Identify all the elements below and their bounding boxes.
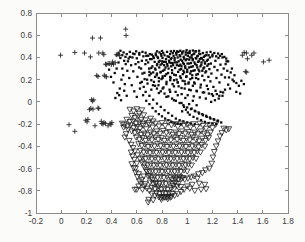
data-point-dot — [183, 63, 185, 65]
data-point-dot — [218, 97, 220, 99]
data-point-dot — [185, 51, 187, 53]
data-point-dot — [203, 66, 205, 68]
data-point-dot — [217, 57, 219, 59]
data-point-dot — [124, 56, 126, 58]
data-point-dot — [163, 69, 165, 71]
data-point-dot — [180, 77, 182, 79]
data-point-dot — [214, 60, 216, 62]
data-point-dot — [181, 110, 183, 112]
data-point-dot — [139, 82, 141, 84]
data-point-dot — [145, 59, 147, 61]
data-point-dot — [240, 80, 242, 82]
data-point-dot — [155, 52, 157, 54]
data-point-dot — [165, 96, 167, 98]
data-point-dot — [170, 58, 172, 60]
data-point-dot — [144, 52, 146, 54]
data-point-dot — [158, 51, 160, 53]
data-point-dot — [206, 116, 208, 118]
data-point-dot — [206, 60, 208, 62]
data-point-dot — [141, 72, 143, 74]
data-point-dot — [161, 115, 163, 117]
data-point-dot — [166, 65, 168, 67]
data-point-dot — [165, 83, 167, 85]
data-point-dot — [154, 76, 156, 78]
data-point-dot — [171, 69, 173, 71]
x-tick-label: 0.6 — [131, 217, 143, 226]
data-point-dot — [189, 78, 191, 80]
data-point-dot — [223, 67, 225, 69]
data-point-dot — [203, 79, 205, 81]
data-point-dot — [189, 114, 191, 116]
data-point-dot — [179, 64, 181, 66]
data-point-dot — [212, 95, 214, 97]
data-point-dot — [188, 89, 190, 91]
data-point-dot — [172, 62, 174, 64]
x-tick-label: 1.4 — [232, 217, 244, 226]
data-point-dot — [230, 71, 232, 73]
data-point-dot — [173, 79, 175, 81]
data-point-dot — [172, 64, 174, 66]
data-point-dot — [207, 88, 209, 90]
plot-canvas: -0.200.20.40.60.811.21.41.61.8 -1-0.8-0.… — [0, 0, 305, 242]
data-point-dot — [160, 55, 162, 57]
data-point-dot — [213, 66, 215, 68]
data-point-dot — [120, 79, 122, 81]
data-point-dot — [142, 55, 144, 57]
data-point-dot — [169, 91, 171, 93]
data-point-dot — [145, 100, 147, 102]
data-point-dot — [201, 75, 203, 77]
data-point-dot — [210, 101, 212, 103]
y-tick-label: 0.6 — [21, 31, 33, 40]
data-point-dot — [138, 52, 140, 54]
data-point-dot — [141, 51, 143, 53]
data-point-dot — [195, 77, 197, 79]
data-point-dot — [173, 85, 175, 87]
data-point-dot — [219, 91, 221, 93]
data-point-dot — [195, 50, 197, 52]
data-point-dot — [186, 106, 188, 108]
data-point-dot — [158, 80, 160, 82]
x-tick-label: 1.6 — [257, 217, 269, 226]
y-tick-label: -0.8 — [18, 187, 33, 196]
x-tick-label: 0 — [59, 217, 64, 226]
data-point-dot — [164, 66, 166, 68]
data-point-dot — [160, 71, 162, 73]
data-point-dot — [207, 63, 209, 65]
x-tick-label: 0.2 — [81, 217, 93, 226]
data-point-dot — [181, 52, 183, 54]
data-point-dot — [186, 71, 188, 73]
data-point-dot — [231, 79, 233, 81]
data-point-dot — [168, 89, 170, 91]
data-point-dot — [163, 54, 165, 56]
data-point-dot — [158, 61, 160, 63]
data-point-dot — [121, 67, 123, 69]
data-point-dot — [194, 69, 196, 71]
data-point-dot — [197, 61, 199, 63]
data-point-dot — [224, 63, 226, 65]
data-point-dot — [207, 76, 209, 78]
data-point-dot — [185, 49, 187, 51]
data-point-dot — [200, 84, 202, 86]
data-point-dot — [167, 112, 169, 114]
data-point-dot — [188, 59, 190, 61]
data-point-dot — [131, 56, 133, 58]
data-point-dot — [218, 81, 220, 83]
data-point-dot — [136, 96, 138, 98]
x-tick-label: 1 — [185, 217, 190, 226]
data-point-dot — [199, 96, 201, 98]
data-point-dot — [156, 102, 158, 104]
data-point-dot — [167, 67, 169, 69]
data-point-dot — [180, 87, 182, 89]
y-tick-label: 0.4 — [21, 53, 33, 62]
data-point-dot — [208, 68, 210, 70]
plot-area-background — [36, 13, 288, 213]
data-point-dot — [178, 69, 180, 71]
data-point-dot — [202, 114, 204, 116]
data-point-dot — [165, 58, 167, 60]
data-point-dot — [212, 86, 214, 88]
x-tick-label: 1.2 — [207, 217, 219, 226]
y-tick-label: 0.2 — [21, 76, 33, 85]
data-point-dot — [129, 51, 131, 53]
data-point-dot — [134, 63, 136, 65]
data-point-dot — [207, 54, 209, 56]
